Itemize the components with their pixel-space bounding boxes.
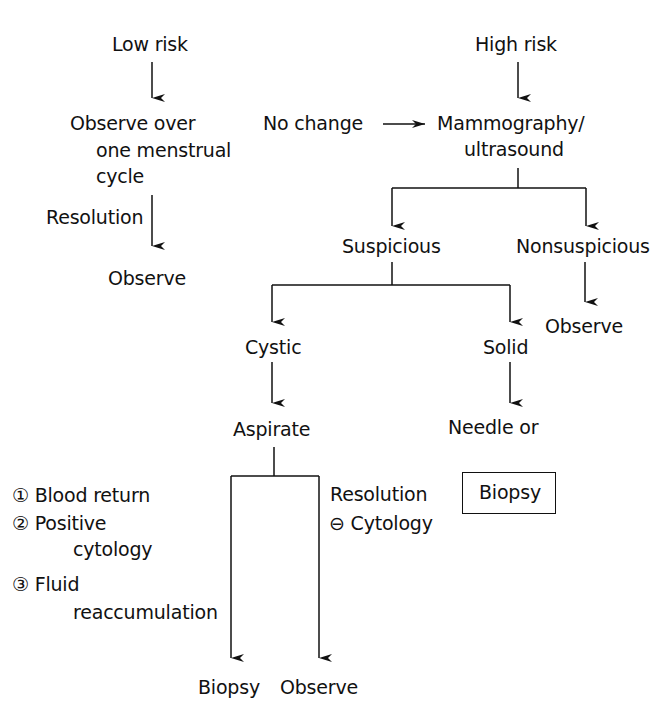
criterion-positive-cytology: ② Positive [12, 512, 106, 534]
final-biopsy-label: Biopsy [198, 676, 260, 698]
criterion-blood-return: ① Blood return [12, 484, 150, 506]
solid-label: Solid [483, 336, 528, 358]
criterion-2-marker: ② [12, 512, 29, 534]
criterion-1-marker: ① [12, 484, 29, 506]
negative-cytology-text: Cytology [351, 512, 433, 534]
needle-label: Needle or [448, 416, 538, 438]
aspirate-resolution-label: Resolution [330, 483, 427, 505]
high-risk-label: High risk [475, 33, 557, 55]
low-risk-label: Low risk [112, 33, 188, 55]
biopsy-box-label: Biopsy [479, 481, 541, 503]
suspicious-label: Suspicious [342, 235, 441, 257]
cystic-label: Cystic [245, 336, 301, 358]
criterion-3-line2: reaccumulation [73, 601, 218, 623]
nonsuspicious-observe-label: Observe [545, 315, 623, 337]
ultrasound-label: ultrasound [464, 138, 564, 160]
nonsuspicious-label: Nonsuspicious [516, 235, 650, 257]
biopsy-box: Biopsy [462, 472, 556, 514]
menstrual-label: one menstrual [96, 139, 231, 161]
resolution-label: Resolution [46, 206, 143, 228]
no-change-label: No change [263, 112, 363, 134]
criterion-3-marker: ③ [12, 573, 29, 595]
observe-over-label: Observe over [70, 112, 195, 134]
criterion-1-text: Blood return [35, 484, 150, 506]
criterion-2-text: Positive [35, 512, 107, 534]
criterion-2-line2: cytology [73, 538, 152, 560]
final-observe-label: Observe [280, 676, 358, 698]
negative-cytology-label: ⊖ Cytology [329, 512, 433, 534]
low-risk-observe-label: Observe [108, 267, 186, 289]
cycle-label: cycle [96, 165, 144, 187]
mammography-label: Mammography/ [437, 112, 585, 134]
criterion-fluid: ③ Fluid [12, 573, 79, 595]
criterion-3-text: Fluid [35, 573, 80, 595]
aspirate-label: Aspirate [233, 418, 310, 440]
minus-circle-icon: ⊖ [329, 512, 345, 534]
